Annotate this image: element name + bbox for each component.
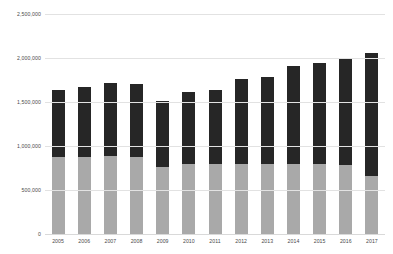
x-axis-tick-label: 2007 [96, 238, 124, 244]
x-axis-tick-label: 2008 [123, 238, 151, 244]
bar-2011[interactable] [209, 90, 222, 234]
bar-segment-upper[interactable] [235, 79, 248, 164]
bar-segment-lower[interactable] [52, 157, 65, 234]
bar-segment-lower[interactable] [104, 156, 117, 234]
bar-segment-lower[interactable] [287, 164, 300, 234]
bar-segment-lower[interactable] [156, 167, 169, 234]
bar-2014[interactable] [287, 66, 300, 234]
bar-segment-lower[interactable] [313, 164, 326, 234]
bar-segment-upper[interactable] [209, 90, 222, 164]
bar-segment-upper[interactable] [261, 77, 274, 164]
bar-segment-lower[interactable] [78, 157, 91, 234]
y-axis-tick-label: 500,000 [0, 187, 41, 193]
bar-segment-upper[interactable] [313, 63, 326, 164]
bar-segment-lower[interactable] [365, 176, 378, 234]
y-axis-tick-label: 0 [0, 231, 41, 237]
plot-area [45, 14, 385, 234]
x-axis-tick-label: 2010 [175, 238, 203, 244]
y-axis-tick-label: 1,500,000 [0, 99, 41, 105]
bar-2009[interactable] [156, 101, 169, 234]
x-axis-tick-label: 2006 [70, 238, 98, 244]
y-axis-tick-label: 2,000,000 [0, 55, 41, 61]
bar-2013[interactable] [261, 76, 274, 234]
x-axis-tick-label: 2005 [44, 238, 72, 244]
bar-series-container [45, 14, 385, 234]
bar-segment-upper[interactable] [287, 66, 300, 164]
gridline [45, 102, 385, 103]
bar-segment-lower[interactable] [261, 164, 274, 234]
x-axis-tick-label: 2013 [253, 238, 281, 244]
bar-2005[interactable] [52, 90, 65, 234]
x-axis-tick-label: 2011 [201, 238, 229, 244]
gridline [45, 234, 385, 235]
x-axis-tick-label: 2014 [279, 238, 307, 244]
bar-segment-lower[interactable] [130, 157, 143, 234]
bar-segment-upper[interactable] [339, 59, 352, 165]
y-axis-tick-label: 1,000,000 [0, 143, 41, 149]
y-axis-tick-label: 2,500,000 [0, 11, 41, 17]
gridline [45, 58, 385, 59]
gridline [45, 146, 385, 147]
bar-segment-upper[interactable] [156, 101, 169, 167]
bar-segment-lower[interactable] [209, 164, 222, 234]
bar-2017[interactable] [365, 53, 378, 234]
bar-2015[interactable] [313, 63, 326, 234]
x-axis-tick-label: 2009 [149, 238, 177, 244]
bar-2008[interactable] [130, 84, 143, 234]
bar-segment-lower[interactable] [182, 164, 195, 234]
bar-segment-lower[interactable] [235, 164, 248, 234]
bar-2010[interactable] [182, 92, 195, 234]
bar-segment-upper[interactable] [182, 92, 195, 164]
x-axis-tick-label: 2015 [306, 238, 334, 244]
gridline [45, 14, 385, 15]
x-axis-tick-label: 2017 [358, 238, 386, 244]
gridline [45, 190, 385, 191]
x-axis-tick-label: 2016 [332, 238, 360, 244]
bar-2007[interactable] [104, 83, 117, 234]
bar-segment-upper[interactable] [365, 53, 378, 176]
stacked-bar-chart: 0500,0001,000,0001,500,0002,000,0002,500… [0, 0, 393, 254]
x-axis-tick-label: 2012 [227, 238, 255, 244]
bar-segment-lower[interactable] [339, 165, 352, 234]
bar-2006[interactable] [78, 87, 91, 234]
